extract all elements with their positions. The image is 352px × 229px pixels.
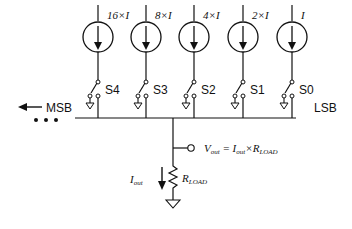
switch-blade [285,83,291,93]
vout-terminal [188,145,194,151]
switch-blade [139,83,145,93]
switch-label: S3 [153,83,168,97]
current-source-s3: 8×IS3 [131,5,173,118]
switch-blade [236,83,242,93]
ground-icon [86,103,94,109]
source-weight-label: 16×I [107,9,130,21]
switch-label: S4 [105,83,120,97]
switch-blade [187,83,193,93]
ellipsis-dots [34,118,58,122]
lsb-label: LSB [314,101,337,115]
ground-icon [280,103,288,109]
source-weight-label: 2×I [252,9,270,21]
msb-arrow-icon [18,103,42,111]
iout-label: Iout [129,173,144,187]
dac-schematic: 16×IS48×IS34×IS22×IS1IS0 MSB LSB Vout = … [0,0,352,229]
current-source-s0: IS0 [277,5,314,118]
source-weight-label: 8×I [155,9,173,21]
msb-label: MSB [46,101,72,115]
ground-icon [134,103,142,109]
switch-label: S0 [299,83,314,97]
rload-label: RLOAD [181,172,207,186]
source-weight-label: I [300,9,306,21]
switch-label: S2 [201,83,216,97]
switch-blade [91,83,97,93]
source-weight-label: 4×I [203,9,221,21]
ground-icon [182,103,190,109]
ground-icon [166,200,180,208]
current-source-s2: 4×IS2 [179,5,221,118]
vout-equation: Vout = Iout×RLOAD [204,142,278,156]
current-source-s1: 2×IS1 [228,5,270,118]
switch-label: S1 [250,83,265,97]
current-source-columns: 16×IS48×IS34×IS22×IS1IS0 [83,5,314,118]
rload-resistor [169,163,177,200]
iout-arrow-icon [158,167,166,190]
current-source-s4: 16×IS4 [83,5,130,118]
ground-icon [231,103,239,109]
